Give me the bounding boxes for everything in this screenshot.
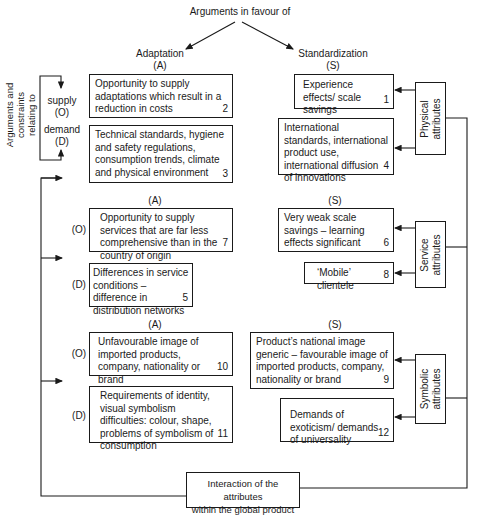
side-label-line3: relating to [26, 83, 37, 147]
box-number: 11 [218, 428, 228, 441]
symbolic-s-code: (S) [320, 319, 350, 331]
box-number: 7 [222, 237, 228, 250]
standardization-heading: Standardization [278, 48, 388, 60]
service-s-code: (S) [320, 195, 350, 207]
diagram-title: Arguments in favour of [150, 6, 330, 18]
interaction-line1: Interaction of the attributes [189, 477, 297, 503]
service-d-code: (D) [68, 279, 90, 291]
box-text: Product’s national image generic – favou… [256, 336, 388, 385]
symbolic-attributes-box: Symbolic attributes [415, 354, 446, 424]
box-number: 12 [378, 427, 389, 440]
box-text: International standards, international p… [284, 122, 388, 183]
service-a-code: (A) [140, 195, 170, 207]
box-number: 8 [383, 269, 389, 282]
attr-label-line2: attributes [431, 98, 443, 139]
box-text: ‘Mobile’ clientele [317, 267, 354, 291]
interaction-line2: within the global product [189, 503, 297, 516]
box-1-experience-effects: Experience effects/ scale savings 1 [294, 74, 394, 109]
box-7-service-less-comprehensive: Opportunity to supply services that are … [89, 208, 233, 252]
box-2-adaptation-cost-reduction: Opportunity to supply adaptations which … [89, 74, 233, 118]
box-number: 1 [383, 94, 389, 107]
attr-label-line1: Physical [419, 98, 431, 139]
box-number: 9 [383, 374, 389, 387]
box-5-service-conditions: Differences in service conditions – diff… [89, 263, 193, 307]
box-number: 3 [222, 168, 228, 181]
symbolic-a-code: (A) [140, 319, 170, 331]
box-number: 2 [222, 103, 228, 116]
box-9-national-image-generic: Product’s national image generic – favou… [250, 332, 394, 389]
box-6-weak-scale-savings: Very weak scale savings – learning effec… [278, 208, 394, 252]
side-label-line2: constraints [15, 83, 26, 147]
standardization-code: (S) [278, 60, 388, 72]
box-text: Very weak scale savings – learning effec… [284, 212, 365, 248]
box-12-demands-exoticism: Demands of exoticism/ demands of univers… [280, 398, 394, 442]
service-attributes-box: Service attributes [415, 221, 446, 288]
attr-label-line2: attributes [431, 234, 443, 275]
box-number: 4 [383, 160, 389, 173]
box-text: Technical standards, hygiene and safety … [95, 129, 224, 178]
supply-label: supply [42, 95, 82, 107]
demand-code: (D) [42, 136, 82, 148]
side-label-line1: Arguments and [4, 83, 15, 147]
box-4-international-standards: International standards, international p… [278, 118, 394, 175]
box-text: Differences in service conditions – diff… [93, 267, 188, 316]
box-11-identity-requirements: Requirements of identity, visual symboli… [89, 386, 233, 443]
side-label: Arguments and constraints relating to [0, 70, 40, 170]
box-number: 5 [182, 292, 188, 305]
attr-label-line2: attributes [431, 368, 443, 409]
symbolic-o-code: (O) [68, 348, 90, 360]
attr-label-line1: Service [419, 234, 431, 275]
box-8-mobile-clientele: ‘Mobile’ clientele 8 [304, 262, 394, 284]
box-number: 10 [217, 361, 228, 374]
physical-attributes-box: Physical attributes [415, 82, 446, 155]
box-3-technical-standards: Technical standards, hygiene and safety … [89, 125, 233, 183]
adaptation-heading: Adaptation [120, 48, 200, 60]
service-o-code: (O) [68, 224, 90, 236]
adaptation-code: (A) [120, 60, 200, 72]
box-text: Opportunity to supply adaptations which … [95, 78, 221, 114]
attr-label-line1: Symbolic [419, 368, 431, 409]
connector-lines [0, 0, 479, 519]
supply-code: (O) [42, 107, 82, 119]
demand-label: demand [42, 124, 82, 136]
box-text: Demands of exoticism/ demands of univers… [290, 409, 378, 445]
box-number: 6 [383, 237, 389, 250]
interaction-box: Interaction of the attributes within the… [186, 472, 300, 508]
box-text: Requirements of identity, visual symboli… [100, 390, 213, 451]
box-10-unfavourable-image: Unfavourable image of imported products,… [89, 332, 233, 376]
symbolic-d-code: (D) [68, 410, 90, 422]
